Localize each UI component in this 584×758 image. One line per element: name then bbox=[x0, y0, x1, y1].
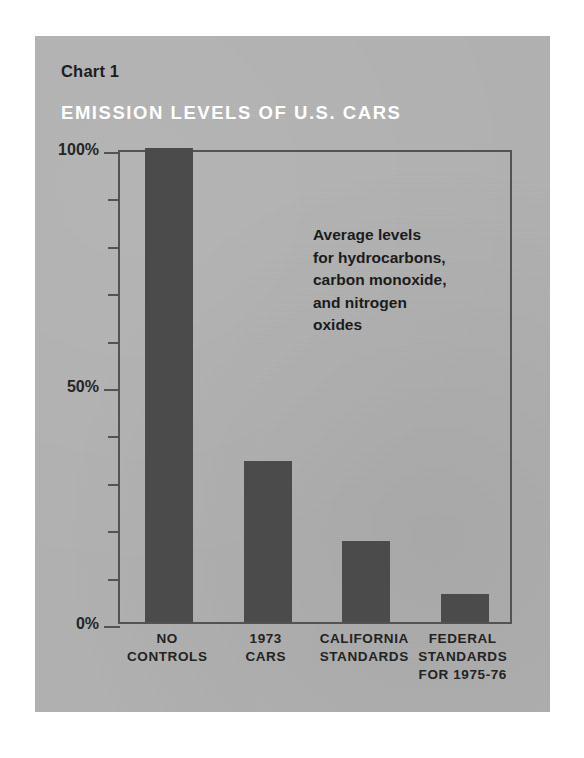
x-axis-category-label: FEDERAL STANDARDS FOR 1975-76 bbox=[406, 630, 521, 684]
plot-area: Average levels for hydrocarbons, carbon … bbox=[118, 150, 512, 624]
y-axis-tick bbox=[104, 626, 120, 628]
y-axis-tick bbox=[104, 389, 120, 391]
figure-panel: Chart 1 EMISSION LEVELS OF U.S. CARS 100… bbox=[35, 36, 550, 712]
chart-number-label: Chart 1 bbox=[61, 62, 119, 81]
y-axis-tick bbox=[108, 247, 120, 249]
x-axis-category-label: 1973 CARS bbox=[209, 630, 324, 666]
y-axis-labels: 100%50%0% bbox=[35, 150, 99, 624]
y-axis-tick bbox=[108, 436, 120, 438]
y-axis-tick bbox=[104, 152, 120, 154]
y-axis-tick bbox=[108, 484, 120, 486]
x-axis-labels: NO CONTROLS1973 CARSCALIFORNIA STANDARDS… bbox=[118, 630, 512, 710]
y-axis-label: 0% bbox=[76, 615, 99, 633]
chart-annotation: Average levels for hydrocarbons, carbon … bbox=[313, 224, 447, 337]
plot-inner bbox=[120, 152, 510, 622]
x-axis-category-label: CALIFORNIA STANDARDS bbox=[307, 630, 422, 666]
y-axis-tick bbox=[108, 199, 120, 201]
y-axis-label: 50% bbox=[67, 378, 99, 396]
bar bbox=[441, 594, 489, 622]
y-axis-tick bbox=[108, 531, 120, 533]
bar bbox=[244, 461, 292, 622]
bar bbox=[342, 541, 390, 622]
y-axis-label: 100% bbox=[58, 141, 99, 159]
x-axis-category-label: NO CONTROLS bbox=[110, 630, 225, 666]
y-axis-tick bbox=[108, 294, 120, 296]
page-title: EMISSION LEVELS OF U.S. CARS bbox=[61, 102, 401, 124]
bar bbox=[145, 148, 193, 622]
y-axis-tick bbox=[108, 579, 120, 581]
y-axis-tick bbox=[108, 342, 120, 344]
